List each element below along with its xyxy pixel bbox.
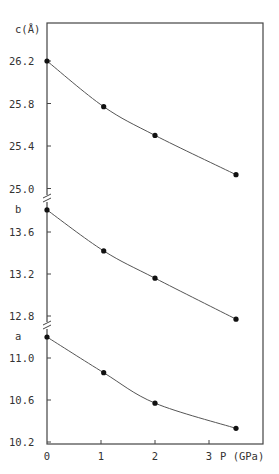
y-tick-label: 25.0 [9,183,34,195]
y-tick-label: 10.2 [9,436,34,448]
fit-curve-b [47,210,236,319]
y-tick-label: 13.6 [9,226,34,238]
y-tick-label: 25.4 [9,140,34,152]
data-point-a [44,334,49,339]
data-point-b [44,207,49,212]
data-point-c [101,104,106,109]
x-tick-label: 2 [152,450,158,462]
y-axis-label-a: a [15,330,21,342]
x-tick-label: 3 [206,450,212,462]
data-point-c [44,58,49,63]
y-tick-label: 13.2 [9,268,34,280]
data-point-c [233,172,238,177]
data-point-a [152,401,157,406]
data-point-c [152,133,157,138]
fit-curves [47,61,236,428]
lattice-parameter-chart: 0123P (GPa)c(Å)26.225.825.425.0b13.613.2… [0,0,279,474]
y-tick-label: 12.8 [9,310,34,322]
data-point-b [101,248,106,253]
data-points [44,58,238,431]
data-point-a [101,370,106,375]
x-tick-label: 0 [44,450,50,462]
y-axis-label-b: b [15,203,21,215]
axis-ticks [47,61,209,444]
y-tick-label: 11.0 [9,352,34,364]
y-tick-label: 26.2 [9,55,34,67]
fit-curve-a [47,337,236,428]
x-axis-label: P (GPa) [220,450,264,462]
data-point-a [233,426,238,431]
data-point-b [233,317,238,322]
x-tick-label: 1 [98,450,104,462]
fit-curve-c [47,61,236,175]
data-point-b [152,276,157,281]
y-tick-label: 25.8 [9,98,34,110]
y-axis-label-c: c(Å) [15,23,40,35]
y-tick-label: 10.6 [9,394,34,406]
